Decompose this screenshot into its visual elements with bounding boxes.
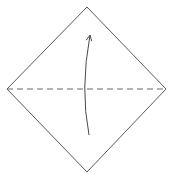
- origami-diagram: [0, 0, 177, 174]
- background: [0, 0, 177, 174]
- origami-diagram-canvas: [0, 0, 177, 174]
